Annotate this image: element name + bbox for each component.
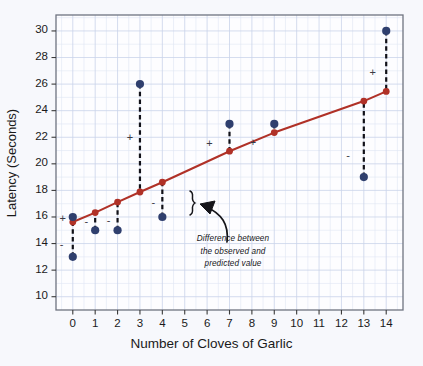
svg-text:+: + [59,212,65,224]
annotation-caption: Difference betweenthe observed andpredic… [163,233,303,271]
y-tick-label: 28 [14,50,48,62]
svg-text:+: + [370,66,376,78]
svg-text:-: - [107,214,111,226]
chart-canvas: +---+-++-+ [0,0,423,366]
y-tick-label: 16 [14,209,48,221]
y-tick-label: 22 [14,130,48,142]
y-tick-label: 24 [14,103,48,115]
y-tick-label: 14 [14,236,48,248]
annotation-line: predicted value [163,258,303,271]
x-axis-title: Number of Cloves of Garlic [0,336,423,351]
svg-text:-: - [60,238,64,250]
y-tick-label: 26 [14,77,48,89]
y-tick-label: 30 [14,23,48,35]
x-tick-label: 14 [371,317,401,329]
svg-text:+: + [250,136,256,148]
svg-text:+: + [127,131,133,143]
y-tick-label: 10 [14,289,48,301]
y-tick-label: 20 [14,156,48,168]
y-tick-label: 12 [14,263,48,275]
svg-text:+: + [206,137,212,149]
svg-text:-: - [84,215,88,227]
scatter-plot-figure: +---+-++-+ Latency (Seconds) Number of C… [0,0,423,366]
annotation-line: Difference between [163,233,303,246]
y-tick-label: 18 [14,183,48,195]
svg-text:-: - [346,149,350,161]
svg-text:-: - [152,196,156,208]
annotation-line: the observed and [163,246,303,259]
